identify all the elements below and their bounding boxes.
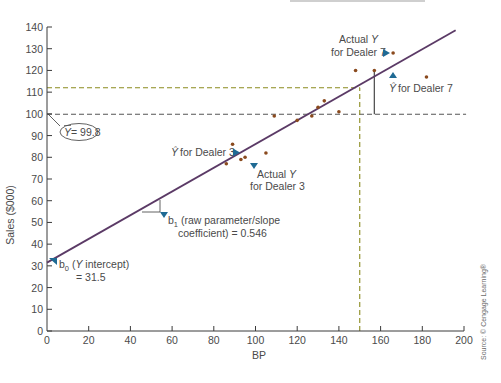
y-tick-label: 80	[31, 151, 43, 163]
x-tick-label: 180	[414, 334, 432, 346]
y-tick-label: 60	[31, 195, 43, 207]
y-tick-label: 70	[31, 173, 43, 185]
source-credit: Source: © Cengage Learning®	[480, 263, 488, 360]
yhat-dealer3-label: Ŷfor Dealer 3	[171, 146, 235, 158]
data-point	[264, 151, 268, 155]
data-point	[243, 155, 247, 159]
arrow-down-icon	[160, 212, 168, 218]
actual-dealer7-annotation: Actual Y for Dealer 7	[331, 33, 390, 58]
data-point	[425, 75, 429, 79]
y-tick-label: 40	[31, 238, 43, 250]
y-tick-label: 120	[25, 64, 43, 76]
data-point	[354, 69, 358, 73]
x-tick-label: 100	[247, 334, 265, 346]
x-tick-label: 120	[288, 334, 306, 346]
yhat-dealer7-annotation: Ŷfor Dealer 7	[389, 72, 453, 94]
actual-dealer7-line1: Actual Y	[339, 33, 379, 45]
y-tick-label: 30	[31, 260, 43, 272]
y-tick-label: 90	[31, 130, 43, 142]
data-point	[272, 114, 276, 118]
x-tick-label: 40	[125, 334, 137, 346]
y-tick-label: 50	[31, 216, 43, 228]
regression-chart: 0102030405060708090100110120130140020406…	[0, 0, 501, 383]
arrow-up-icon	[389, 72, 397, 78]
x-tick-label: 160	[372, 334, 390, 346]
x-tick-label: 60	[166, 334, 178, 346]
actual-dealer3-line1: Actual Y	[257, 168, 297, 180]
data-point	[391, 51, 395, 55]
y-tick-label: 140	[25, 21, 43, 33]
b0-annotation: b0 (Y intercept) = 31.5	[49, 258, 129, 283]
data-point	[239, 158, 243, 162]
x-tick-label: 200	[455, 334, 473, 346]
y-tick-label: 100	[25, 108, 43, 120]
actual-dealer3-annotation: Actual Y for Dealer 3	[250, 163, 305, 192]
ybar-label: Y= 99.8	[64, 126, 101, 138]
y-axis-title: Sales ($000)	[4, 185, 16, 245]
x-tick-label: 20	[83, 334, 95, 346]
yhat-dealer3-annotation: Ŷfor Dealer 3	[171, 146, 240, 158]
b0-line2: = 31.5	[76, 271, 106, 283]
y-tick-label: 20	[31, 282, 43, 294]
data-point	[316, 106, 320, 110]
data-point	[295, 119, 299, 123]
actual-dealer7-line2: for Dealer 7	[331, 46, 386, 58]
y-tick-label: 110	[26, 86, 43, 98]
data-point	[373, 69, 377, 73]
x-tick-label: 0	[44, 334, 50, 346]
reference-lines	[47, 70, 466, 331]
b1-annotation: b1 (raw parameter/slope coefficient) = 0…	[142, 200, 280, 239]
arrow-right-icon	[383, 49, 390, 57]
b1-line2: coefficient) = 0.546	[178, 227, 267, 239]
x-tick-label: 140	[330, 334, 348, 346]
data-point	[323, 99, 327, 103]
x-tick-label: 80	[208, 334, 220, 346]
yhat-dealer7-label: Ŷfor Dealer 7	[389, 82, 453, 94]
ybar-pointer	[48, 114, 60, 126]
data-point	[310, 114, 314, 118]
ybar-annotation: Y= 99.8	[48, 114, 101, 141]
y-tick-label: 130	[25, 43, 43, 55]
data-points	[225, 51, 429, 165]
actual-dealer3-line2: for Dealer 3	[250, 180, 305, 192]
y-tick-label: 10	[31, 303, 43, 315]
data-point	[337, 110, 341, 114]
x-axis-title: BP	[252, 349, 266, 361]
data-point	[225, 162, 229, 166]
y-tick-label: 0	[37, 325, 43, 337]
